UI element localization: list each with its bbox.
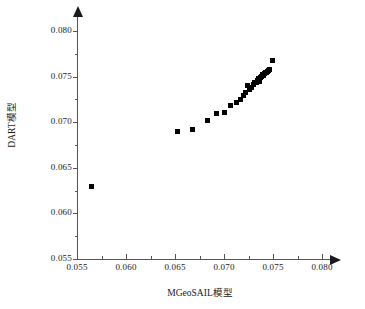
data-point-marker <box>228 103 233 108</box>
x-tick-minor <box>298 256 299 259</box>
data-point-marker <box>205 118 210 123</box>
x-tick-major <box>175 254 176 259</box>
y-tick-major <box>73 122 78 123</box>
y-tick-label: 0.060 <box>30 207 72 217</box>
x-tick-major <box>273 254 274 259</box>
x-tick-label: 0.060 <box>104 262 148 272</box>
data-point-marker <box>89 184 94 189</box>
x-tick-label: 0.055 <box>55 262 99 272</box>
data-point-marker <box>175 129 180 134</box>
x-tick-label: 0.070 <box>202 262 246 272</box>
x-tick-minor <box>151 256 152 259</box>
x-tick-major <box>224 254 225 259</box>
y-tick-minor <box>75 99 78 100</box>
y-tick-major <box>73 259 78 260</box>
data-point-marker <box>267 67 272 72</box>
y-axis-line <box>77 16 78 259</box>
x-tick-label: 0.075 <box>251 262 295 272</box>
y-tick-label: 0.055 <box>30 253 72 263</box>
x-axis-title: MGeoSAIL模型 <box>120 285 280 299</box>
data-point-marker <box>214 111 219 116</box>
y-tick-minor <box>75 236 78 237</box>
y-tick-minor <box>75 145 78 146</box>
scatter-chart: 0.0550.0600.0650.0700.0750.0800.0550.060… <box>0 0 365 309</box>
y-axis-arrow-icon <box>73 6 83 17</box>
x-axis-line <box>77 259 332 260</box>
y-tick-minor <box>75 191 78 192</box>
y-tick-label: 0.070 <box>30 116 72 126</box>
y-tick-major <box>73 168 78 169</box>
x-tick-label: 0.080 <box>300 262 344 272</box>
x-tick-major <box>126 254 127 259</box>
y-tick-major <box>73 31 78 32</box>
x-tick-minor <box>102 256 103 259</box>
y-tick-label: 0.065 <box>30 162 72 172</box>
data-point-marker <box>270 58 275 63</box>
data-point-marker <box>222 110 227 115</box>
y-axis-title: DART模型 <box>4 85 18 165</box>
x-tick-minor <box>249 256 250 259</box>
x-tick-major <box>322 254 323 259</box>
y-tick-major <box>73 77 78 78</box>
x-tick-label: 0.065 <box>153 262 197 272</box>
y-tick-label: 0.080 <box>30 25 72 35</box>
y-tick-major <box>73 213 78 214</box>
x-tick-minor <box>200 256 201 259</box>
data-point-marker <box>190 127 195 132</box>
y-tick-minor <box>75 54 78 55</box>
y-tick-label: 0.075 <box>30 71 72 81</box>
